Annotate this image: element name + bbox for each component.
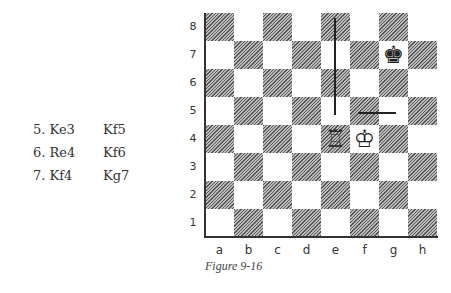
square-b6 — [234, 69, 263, 97]
board-bottom-edge — [204, 236, 438, 238]
white-move: 6. Re4 — [33, 141, 103, 164]
square-h6 — [408, 69, 437, 97]
white-rook-icon: ♖ — [321, 125, 350, 153]
square-g8 — [379, 13, 408, 41]
file-label: d — [292, 243, 321, 257]
rank-label: 5 — [187, 104, 199, 117]
square-a8 — [205, 13, 234, 41]
square-a1 — [205, 209, 234, 237]
square-a3 — [205, 153, 234, 181]
square-f2 — [350, 181, 379, 209]
file-label: b — [234, 243, 263, 257]
square-h1 — [408, 209, 437, 237]
rank-label: 2 — [187, 188, 199, 201]
square-d7 — [292, 41, 321, 69]
rank-label: 6 — [187, 76, 199, 89]
square-g6 — [379, 69, 408, 97]
square-f3 — [350, 153, 379, 181]
square-b5 — [234, 97, 263, 125]
figure-caption: Figure 9-16 — [205, 259, 262, 274]
square-d3 — [292, 153, 321, 181]
square-g4 — [379, 125, 408, 153]
square-a4 — [205, 125, 234, 153]
file-label: f — [350, 243, 379, 257]
square-g2 — [379, 181, 408, 209]
square-e2 — [321, 181, 350, 209]
white-king-icon: ♔ — [350, 125, 379, 153]
board-left-edge — [204, 13, 206, 237]
black-move: Kf6 — [103, 141, 126, 164]
square-c3 — [263, 153, 292, 181]
square-g5 — [379, 97, 408, 125]
square-h3 — [408, 153, 437, 181]
move-row: 5. Ke3 Kf5 — [33, 118, 129, 141]
square-b1 — [234, 209, 263, 237]
file-label: g — [379, 243, 408, 257]
rank-label: 7 — [187, 48, 199, 61]
square-d1 — [292, 209, 321, 237]
rank-label: 4 — [187, 132, 199, 145]
move-list: 5. Ke3 Kf5 6. Re4 Kf6 7. Kf4 Kg7 — [33, 118, 129, 187]
square-d5 — [292, 97, 321, 125]
black-move: Kf5 — [103, 118, 126, 141]
square-e6 — [321, 69, 350, 97]
square-c6 — [263, 69, 292, 97]
file-label: a — [205, 243, 234, 257]
file-label: c — [263, 243, 292, 257]
black-king-icon: ♚ — [379, 41, 408, 69]
square-c1 — [263, 209, 292, 237]
square-c5 — [263, 97, 292, 125]
square-d4 — [292, 125, 321, 153]
rank-label: 3 — [187, 160, 199, 173]
square-e1 — [321, 209, 350, 237]
square-h2 — [408, 181, 437, 209]
square-f1 — [350, 209, 379, 237]
move-row: 7. Kf4 Kg7 — [33, 164, 129, 187]
square-g1 — [379, 209, 408, 237]
square-c2 — [263, 181, 292, 209]
chess-board: ♖♔♚ — [205, 13, 437, 237]
square-d6 — [292, 69, 321, 97]
square-e3 — [321, 153, 350, 181]
black-move: Kg7 — [103, 164, 129, 187]
rank-label: 1 — [187, 216, 199, 229]
square-a2 — [205, 181, 234, 209]
square-a6 — [205, 69, 234, 97]
square-h5 — [408, 97, 437, 125]
square-b3 — [234, 153, 263, 181]
square-a5 — [205, 97, 234, 125]
rank-cutoff-line — [358, 112, 396, 114]
square-h8 — [408, 13, 437, 41]
rook-file-cutoff-line — [334, 18, 336, 115]
square-b2 — [234, 181, 263, 209]
square-e8 — [321, 13, 350, 41]
square-a7 — [205, 41, 234, 69]
square-f6 — [350, 69, 379, 97]
square-b4 — [234, 125, 263, 153]
white-move: 7. Kf4 — [33, 164, 103, 187]
square-e7 — [321, 41, 350, 69]
move-row: 6. Re4 Kf6 — [33, 141, 129, 164]
square-f5 — [350, 97, 379, 125]
square-c4 — [263, 125, 292, 153]
file-label: h — [408, 243, 437, 257]
square-e5 — [321, 97, 350, 125]
square-h4 — [408, 125, 437, 153]
square-f8 — [350, 13, 379, 41]
rank-label: 8 — [187, 20, 199, 33]
square-h7 — [408, 41, 437, 69]
square-f7 — [350, 41, 379, 69]
file-label: e — [321, 243, 350, 257]
square-d2 — [292, 181, 321, 209]
square-c7 — [263, 41, 292, 69]
white-move: 5. Ke3 — [33, 118, 103, 141]
square-c8 — [263, 13, 292, 41]
square-b7 — [234, 41, 263, 69]
square-d8 — [292, 13, 321, 41]
square-b8 — [234, 13, 263, 41]
square-g3 — [379, 153, 408, 181]
